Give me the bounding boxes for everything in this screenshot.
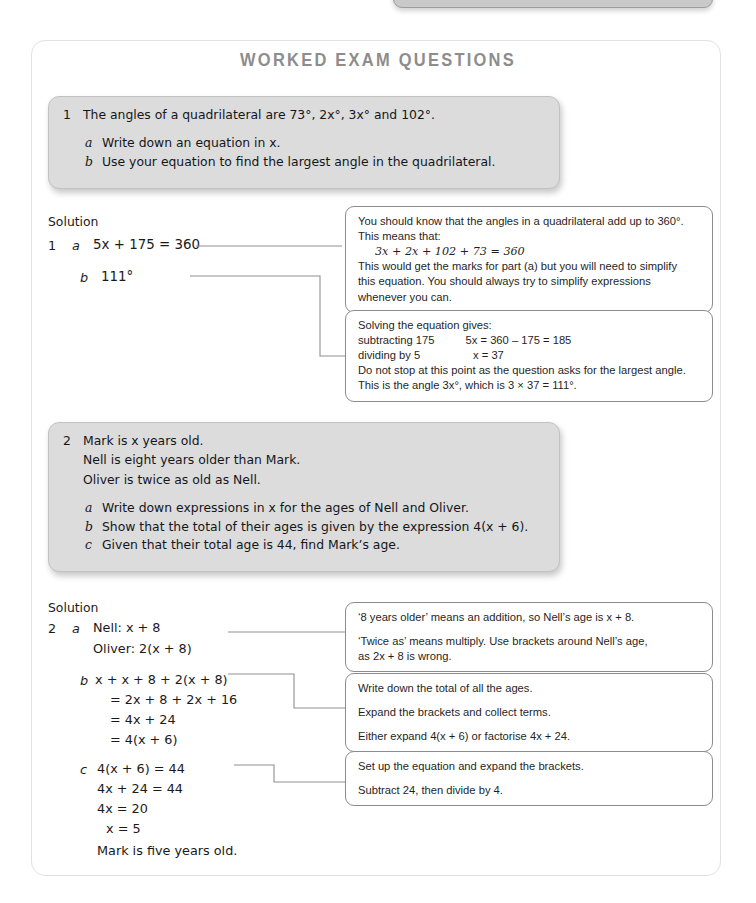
- note-2a: ‘8 years older’ means an addition, so Ne…: [345, 602, 713, 672]
- question-2-part-b-text: Show that the total of their ages is giv…: [102, 521, 528, 533]
- solution-1a-label: a: [72, 238, 80, 253]
- question-1-part-b-text: Use your equation to find the largest an…: [102, 156, 495, 168]
- question-2-panel: 2 Mark is x years old. Nell is eight yea…: [48, 422, 560, 572]
- question-2-stem-row-1: 2 Mark is x years old.: [63, 435, 543, 447]
- solution-1-number: 1: [48, 238, 56, 253]
- question-2-stem-line-2: Nell is eight years older than Mark.: [83, 454, 543, 466]
- question-1-part-b: b Use your equation to find the largest …: [63, 156, 543, 168]
- solution-1a-text: 5x + 175 = 360: [93, 237, 200, 252]
- question-2-part-a-label: a: [85, 502, 102, 514]
- solution-2c-line-1: 4(x + 6) = 44: [97, 761, 185, 776]
- solution-1-label: Solution: [48, 214, 98, 229]
- solution-2b-line-1: x + x + 8 + 2(x + 8): [95, 672, 228, 687]
- note-2c-line-1: Set up the equation and expand the brack…: [358, 759, 701, 774]
- question-1-part-a: a Write down an equation in x.: [63, 137, 543, 149]
- question-2-part-c-label: c: [85, 539, 102, 551]
- question-1-panel: 1 The angles of a quadrilateral are 73°,…: [48, 96, 560, 189]
- note-2b-line-2: Expand the brackets and collect terms.: [358, 705, 701, 720]
- question-2-part-a-text: Write down expressions in x for the ages…: [102, 502, 469, 514]
- note-2b-line-1: Write down the total of all the ages.: [358, 681, 701, 696]
- solution-2-number: 2: [48, 621, 56, 636]
- question-1-stem-row: 1 The angles of a quadrilateral are 73°,…: [63, 109, 543, 121]
- question-2-stem-line-3: Oliver is twice as old as Nell.: [83, 474, 543, 486]
- note-1b-line-1: Solving the equation gives:: [358, 318, 701, 333]
- question-2-part-b: b Show that the total of their ages is g…: [63, 521, 543, 533]
- question-2-part-c: c Given that their total age is 44, find…: [63, 539, 543, 551]
- question-1-stem: The angles of a quadrilateral are 73°, 2…: [83, 109, 543, 121]
- previous-section-panel-cutoff: [393, 0, 713, 8]
- solution-1b-text: 111°: [101, 269, 133, 284]
- spacer-cell: [63, 454, 83, 466]
- note-1a-line-4: This would get the marks for part (a) bu…: [358, 259, 701, 274]
- question-2-stem-line-1: Mark is x years old.: [83, 435, 543, 447]
- note-1a: You should know that the angles in a qua…: [345, 206, 713, 313]
- solution-2b-line-3: = 4x + 24: [110, 712, 176, 727]
- solution-2c-line-5: Mark is five years old.: [97, 843, 237, 858]
- note-1a-line-3: 3x + 2x + 102 + 73 = 360: [358, 244, 701, 259]
- note-2b-line-3: Either expand 4(x + 6) or factorise 4x +…: [358, 729, 701, 744]
- note-2c: Set up the equation and expand the brack…: [345, 751, 713, 806]
- question-1-number: 1: [63, 109, 83, 121]
- question-1-part-b-label: b: [85, 156, 102, 168]
- note-2c-line-2: Subtract 24, then divide by 4.: [358, 783, 701, 798]
- note-1a-line-5: this equation. You should always try to …: [358, 274, 701, 289]
- note-2a-line-3: as 2x + 8 is wrong.: [358, 649, 701, 664]
- question-2-part-c-text: Given that their total age is 44, find M…: [102, 539, 400, 551]
- question-2-part-b-label: b: [85, 521, 102, 533]
- question-1-part-a-label: a: [85, 137, 102, 149]
- solution-2a-label: a: [72, 621, 80, 636]
- note-1b: Solving the equation gives: subtracting …: [345, 310, 713, 402]
- note-1b-line-3: dividing by 5 x = 37: [358, 348, 701, 363]
- question-1-part-a-text: Write down an equation in x.: [102, 137, 281, 149]
- question-2-number: 2: [63, 435, 83, 447]
- solution-2c-line-3: 4x = 20: [97, 801, 148, 816]
- solution-2-label: Solution: [48, 600, 98, 615]
- note-1b-line-2: subtracting 175 5x = 360 – 175 = 185: [358, 333, 701, 348]
- note-1b-line-5: This is the angle 3x°, which is 3 × 37 =…: [358, 378, 701, 393]
- solution-2b-line-2: = 2x + 8 + 2x + 16: [110, 692, 237, 707]
- question-2-part-a: a Write down expressions in x for the ag…: [63, 502, 543, 514]
- question-2-stem-row-3: Oliver is twice as old as Nell.: [63, 474, 543, 486]
- solution-2a-line-1: Nell: x + 8: [93, 620, 161, 635]
- solution-2c-label: c: [80, 762, 87, 777]
- note-1a-line-2: This means that:: [358, 229, 701, 244]
- solution-2b-label: b: [80, 673, 88, 688]
- page-title: WORKED EXAM QUESTIONS: [23, 50, 734, 71]
- note-2a-line-1: ‘8 years older’ means an addition, so Ne…: [358, 610, 701, 625]
- solution-2a-line-2: Oliver: 2(x + 8): [93, 641, 192, 656]
- note-2b: Write down the total of all the ages. Ex…: [345, 673, 713, 752]
- question-2-stem-row-2: Nell is eight years older than Mark.: [63, 454, 543, 466]
- note-2a-line-2: ‘Twice as’ means multiply. Use brackets …: [358, 634, 701, 649]
- note-1a-line-1: You should know that the angles in a qua…: [358, 214, 701, 229]
- solution-1b-label: b: [80, 270, 88, 285]
- solution-2b-line-4: = 4(x + 6): [110, 732, 178, 747]
- solution-2c-line-2: 4x + 24 = 44: [97, 781, 183, 796]
- spacer-cell: [63, 474, 83, 486]
- solution-2c-line-4: x = 5: [106, 821, 141, 836]
- note-1b-line-4: Do not stop at this point as the questio…: [358, 363, 701, 378]
- note-1a-line-6: whenever you can.: [358, 290, 701, 305]
